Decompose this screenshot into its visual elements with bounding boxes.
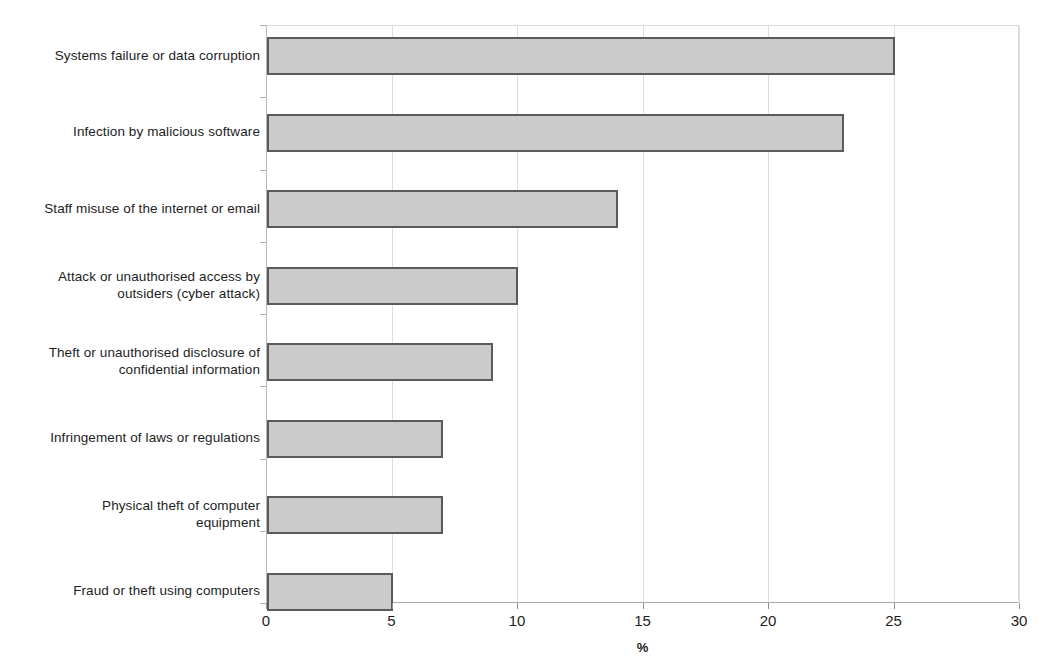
- category-label-line: Fraud or theft using computers: [10, 582, 260, 599]
- bar[interactable]: [267, 190, 618, 228]
- x-axis-tick-label: 0: [236, 612, 296, 629]
- category-label-line: Infection by malicious software: [10, 123, 260, 140]
- bar[interactable]: [267, 267, 518, 305]
- category-label: Theft or unauthorised disclosure ofconfi…: [10, 344, 260, 378]
- x-axis-tick: [266, 603, 267, 609]
- gridline-20: [768, 26, 769, 602]
- bar[interactable]: [267, 343, 493, 381]
- x-axis-tick: [392, 603, 393, 609]
- y-axis-tick: [260, 170, 266, 171]
- y-axis-tick: [260, 459, 266, 460]
- category-label-line: Staff misuse of the internet or email: [10, 200, 260, 217]
- y-axis-tick: [260, 314, 266, 315]
- category-label-line: Physical theft of computer: [10, 497, 260, 514]
- y-axis-tick: [260, 242, 266, 243]
- y-axis-tick: [260, 531, 266, 532]
- category-label-line: outsiders (cyber attack): [10, 285, 260, 302]
- bar-chart: Systems failure or data corruptionInfect…: [0, 0, 1043, 671]
- category-label-line: equipment: [10, 514, 260, 531]
- category-label: Infection by malicious software: [10, 123, 260, 140]
- x-axis-tick-label: 30: [989, 612, 1043, 629]
- gridline-15: [643, 26, 644, 602]
- bar[interactable]: [267, 496, 443, 534]
- bar[interactable]: [267, 37, 895, 75]
- x-axis-tick: [768, 603, 769, 609]
- category-label-line: Systems failure or data corruption: [10, 47, 260, 64]
- category-label: Fraud or theft using computers: [10, 582, 260, 599]
- x-axis-tick-label: 15: [613, 612, 673, 629]
- x-axis-tick: [517, 603, 518, 609]
- bar[interactable]: [267, 573, 393, 611]
- category-label: Infringement of laws or regulations: [10, 429, 260, 446]
- category-label: Staff misuse of the internet or email: [10, 200, 260, 217]
- category-label: Attack or unauthorised access byoutsider…: [10, 268, 260, 302]
- x-axis-tick: [643, 603, 644, 609]
- gridline-25: [894, 26, 895, 602]
- x-axis-title: %: [583, 640, 703, 655]
- category-label-line: Theft or unauthorised disclosure of: [10, 344, 260, 361]
- x-axis-tick-label: 25: [864, 612, 924, 629]
- gridline-10: [517, 26, 518, 602]
- gridline-30: [1019, 26, 1020, 602]
- category-label-line: confidential information: [10, 361, 260, 378]
- x-axis-tick-label: 10: [487, 612, 547, 629]
- plot-area: [266, 25, 1019, 603]
- category-label: Systems failure or data corruption: [10, 47, 260, 64]
- x-axis-tick: [1019, 603, 1020, 609]
- y-axis-tick: [260, 97, 266, 98]
- x-axis-tick-label: 5: [362, 612, 422, 629]
- category-label: Physical theft of computerequipment: [10, 497, 260, 531]
- x-axis-tick: [894, 603, 895, 609]
- category-label-line: Attack or unauthorised access by: [10, 268, 260, 285]
- y-axis-tick: [260, 25, 266, 26]
- category-label-line: Infringement of laws or regulations: [10, 429, 260, 446]
- x-axis-tick-label: 20: [738, 612, 798, 629]
- bar[interactable]: [267, 114, 844, 152]
- bar[interactable]: [267, 420, 443, 458]
- y-axis-tick: [260, 386, 266, 387]
